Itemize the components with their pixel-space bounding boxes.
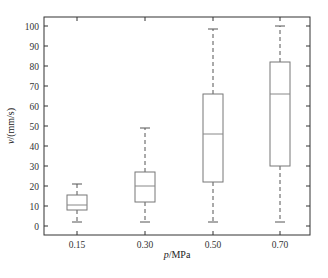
y-tick-label: 50 [30,122,40,132]
x-axis-ticks: 0.150.300.500.70 [69,17,289,250]
x-tick-label: 0.30 [137,240,154,250]
box-plot-chart: 0102030405060708090100 0.150.300.500.70 … [0,0,328,278]
y-tick-label: 30 [30,162,40,172]
box-0.50 [203,29,223,222]
box-0.30 [135,128,155,222]
y-tick-label: 100 [25,22,40,32]
y-tick-label: 80 [30,62,40,72]
y-tick-label: 40 [30,142,40,152]
y-tick-label: 10 [30,202,40,212]
y-axis-unit: /(mm/s) [5,108,17,140]
box-series [67,26,290,222]
x-tick-label: 0.70 [272,240,289,250]
x-axis-title: p/MPa [163,249,191,260]
box-0.70 [270,26,290,222]
x-axis-unit: /MPa [169,249,191,260]
y-tick-label: 0 [34,222,39,232]
y-tick-label: 60 [30,102,40,112]
y-tick-label: 20 [30,182,40,192]
y-tick-label: 70 [30,82,40,92]
y-axis-title: v/(mm/s) [5,108,17,144]
x-tick-label: 0.50 [205,240,222,250]
x-tick-label: 0.15 [69,240,86,250]
box-0.15 [67,184,87,222]
y-tick-label: 90 [30,42,40,52]
